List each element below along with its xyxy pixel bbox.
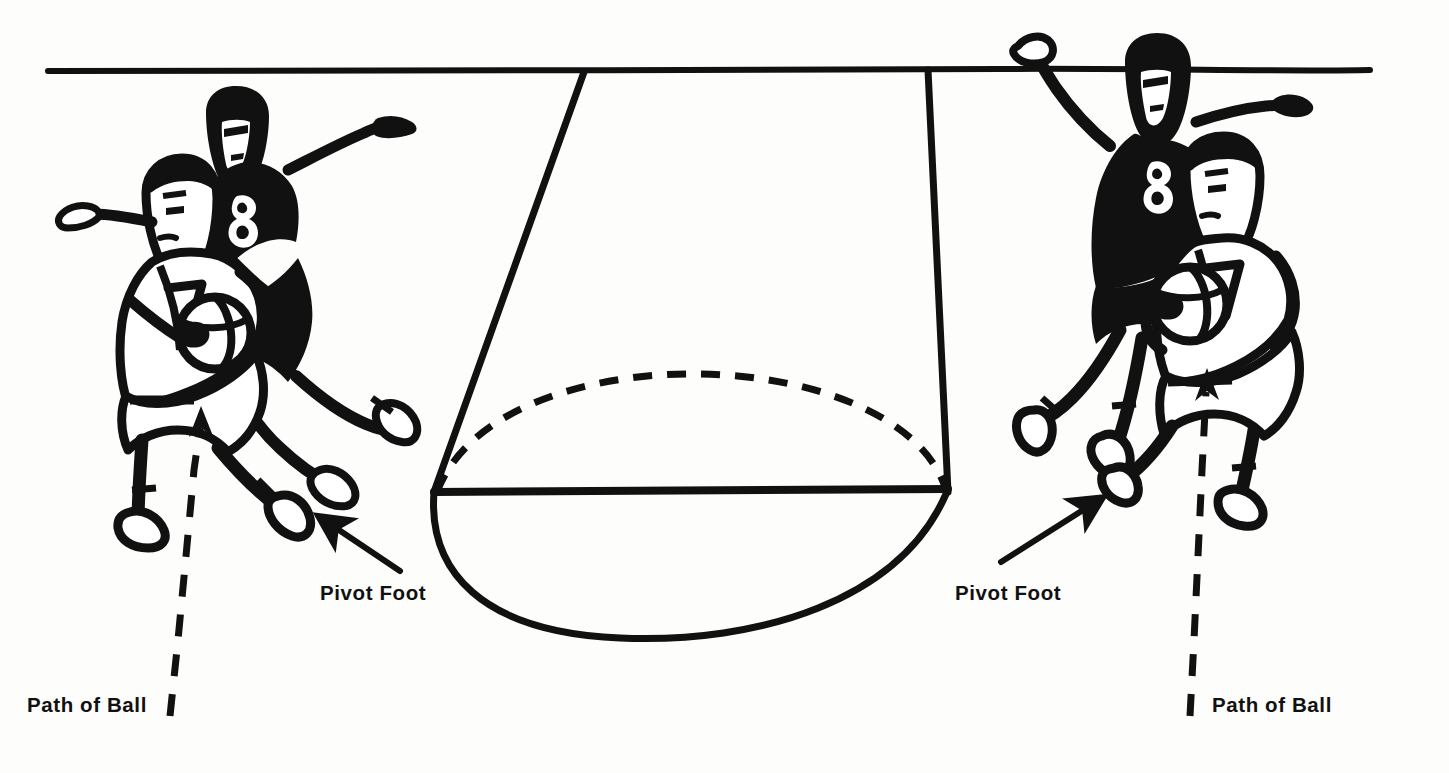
left-offense-mouth <box>160 237 176 239</box>
left-offense-left-hand <box>58 205 99 228</box>
diagram-canvas: Pivot Foot Pivot Foot Path of Ball Path … <box>0 0 1449 773</box>
cylinder-hidden-ellipse-dashed <box>437 374 946 492</box>
pivot-foot-label-right: Pivot Foot <box>955 583 1061 604</box>
path-of-ball-label-right: Path of Ball <box>1212 695 1332 716</box>
left-defender-right-hand <box>372 116 416 138</box>
left-path-of-ball-dashed-line <box>170 428 200 716</box>
left-path-of-ball-annotation <box>170 406 213 716</box>
right-defender-extended-hand <box>1271 94 1313 117</box>
left-offense-pivot-sock-band <box>132 488 156 490</box>
right-offense-pivot-band <box>1232 466 1256 468</box>
right-player-pair <box>1013 33 1313 526</box>
left-offense-pivot-shoe <box>118 511 165 548</box>
right-defender-front-leg <box>1118 338 1142 442</box>
right-defender-trail-shoe <box>1017 410 1053 452</box>
left-offense-rear-shoe <box>268 495 311 537</box>
left-pivot-foot-annotation <box>330 524 400 571</box>
left-offense-brow <box>163 193 186 196</box>
right-offense-mouth <box>1202 215 1218 217</box>
right-path-of-ball-dashed-line <box>1190 392 1206 716</box>
pivot-cylinder-group <box>434 70 948 639</box>
right-pivot-foot-arrow <box>1001 505 1091 562</box>
cylinder-left-edge <box>434 72 584 492</box>
right-offense-rear-shoe <box>1102 467 1139 503</box>
path-of-ball-label-left: Path of Ball <box>27 695 147 716</box>
cylinder-bottom-rim-line <box>434 489 948 492</box>
right-offense-brow <box>1205 171 1228 174</box>
right-defender-raised-hand <box>1013 37 1053 64</box>
cylinder-base-arc <box>434 492 946 639</box>
left-player-pair <box>58 86 417 548</box>
left-pivot-foot-arrow <box>330 524 400 571</box>
right-defender-front-band <box>1112 404 1136 406</box>
right-offense-pivot-shoe <box>1218 489 1263 526</box>
cylinder-right-edge <box>928 70 948 492</box>
basketball-pivot-illustration <box>0 0 1449 773</box>
pivot-foot-label-left: Pivot Foot <box>320 583 426 604</box>
right-offense-shorts-band <box>1168 380 1232 382</box>
left-defender-left-shoe <box>310 469 355 507</box>
right-pivot-foot-annotation <box>1001 505 1091 562</box>
